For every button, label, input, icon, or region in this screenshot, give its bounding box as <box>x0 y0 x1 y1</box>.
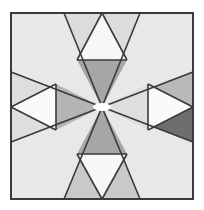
center-highlight <box>93 103 111 111</box>
figure-canvas <box>0 0 204 210</box>
